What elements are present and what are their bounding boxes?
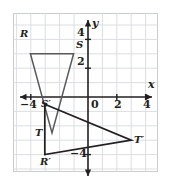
y-axis-label: y (92, 18, 98, 29)
vertex-label-T: T (35, 128, 42, 138)
y-tick-label-2: 2 (77, 56, 85, 67)
y-tick-label-neg4: −4 (70, 148, 87, 159)
vertex-label-T-prime: T′ (134, 135, 144, 145)
x-tick-label-neg4: −4 (20, 99, 37, 110)
x-axis-label: x (148, 79, 155, 90)
y-tick-label-4: 4 (77, 27, 85, 38)
x-tick-label-2: 2 (114, 99, 122, 110)
x-tick-label-0: 0 (91, 99, 99, 110)
vertex-label-R-prime: R′ (40, 157, 51, 167)
vertex-label-S: S (76, 40, 83, 50)
x-tick-label-4: 4 (143, 99, 151, 110)
vertex-label-S-prime: S′ (41, 99, 51, 109)
vertex-label-R: R (20, 29, 28, 39)
coordinate-plane-figure: x y −4 0 2 4 4 2 −4 R S T S′ R′ T′ (0, 0, 170, 182)
